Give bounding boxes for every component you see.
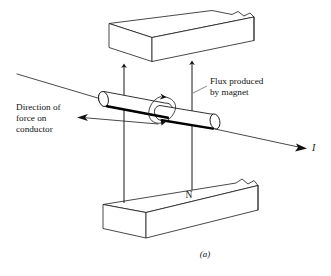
figure-caption: (a) (200, 249, 211, 259)
force-label-group: Direction of force on conductor (16, 102, 62, 134)
flux-label-line2: by magnet (210, 87, 249, 97)
conductor-cylinder (97, 91, 221, 130)
force-on-conductor-diagram: N I (0, 0, 331, 276)
flux-arrows-group (124, 64, 192, 203)
force-direction-arrow (77, 114, 158, 124)
current-line-right-segment (215, 129, 303, 148)
upper-magnet-block (109, 11, 254, 62)
figure-container: N I (0, 0, 331, 276)
flux-label-group: Flux produced by magnet (193, 76, 264, 97)
force-label-line3: conductor (16, 124, 53, 134)
current-arrowhead (295, 144, 307, 152)
flux-label-line1: Flux produced (210, 76, 264, 86)
flux-label-leader-line (193, 86, 207, 93)
force-label-line2: force on (16, 113, 47, 123)
lower-magnet-block (103, 179, 258, 238)
force-label-line1: Direction of (16, 102, 62, 112)
pole-label-north: N (186, 190, 193, 200)
force-arrow-shaft (82, 118, 158, 125)
current-label: I (311, 142, 316, 153)
